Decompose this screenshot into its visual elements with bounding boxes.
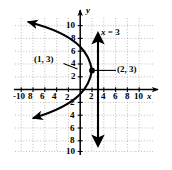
x-tick-label-4: 4 [101, 92, 106, 101]
y-tick-label-6: 6 [71, 47, 76, 56]
line-label-rest: = 3 [106, 27, 120, 37]
annotation-point-1-3: (1, 3) [34, 55, 54, 64]
y-tick-label-neg4: 4 [70, 111, 75, 120]
vertex-point-marker [89, 68, 95, 74]
y-tick-label-2: 2 [71, 72, 76, 81]
y-tick-label-4: 4 [71, 59, 76, 68]
x-tick-label-neg8: 8 [28, 92, 33, 101]
x-tick-label-neg2: 2 [65, 93, 70, 102]
x-tick-label-2: 2 [89, 92, 94, 101]
x-tick-label-10: 10 [134, 92, 143, 101]
y-tick-label-neg8: 8 [70, 136, 75, 145]
x-axis-label: x [147, 92, 152, 101]
annotation-point-2-3: (2, 3) [117, 65, 137, 74]
x-tick-label-neg4: 4 [52, 92, 57, 101]
x-tick-label-6: 6 [113, 92, 118, 101]
y-tick-label-neg10: 10 [66, 147, 75, 156]
x-tick-label-neg6: 6 [40, 92, 45, 101]
y-tick-label-neg2: 2 [70, 98, 75, 107]
y-tick-label-8: 8 [71, 34, 76, 43]
x-tick-label-neg10: -10 [13, 92, 25, 101]
graph-figure: -10 8 6 4 2 2 4 6 8 10 10 8 6 4 2 2 4 6 … [0, 0, 172, 170]
coordinate-plane [0, 0, 172, 170]
annotation-line-x-equals-3: x = 3 [101, 28, 120, 37]
x-tick-label-8: 8 [125, 92, 130, 101]
y-tick-label-10: 10 [66, 21, 75, 30]
y-axis-label: y [86, 6, 90, 15]
y-tick-label-neg6: 6 [70, 124, 75, 133]
